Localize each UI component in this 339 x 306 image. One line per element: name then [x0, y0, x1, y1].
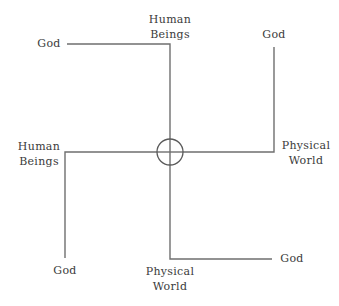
label-text: God [37, 37, 60, 50]
label-text: God [262, 28, 285, 41]
label-line-1: Physical [276, 138, 336, 153]
diagram-canvas: God Human Beings God Human Beings Physic… [0, 0, 339, 306]
label-text: God [53, 264, 76, 277]
label-line-2: World [276, 153, 336, 168]
label-line-2: Beings [14, 154, 64, 169]
label-top-right-god: God [259, 27, 289, 42]
label-bottom-right-god: God [277, 251, 307, 266]
label-bottom-physical-world: Physical World [140, 264, 200, 294]
arm-left [65, 152, 157, 258]
arm-right [183, 47, 274, 152]
label-right-physical-world: Physical World [276, 138, 336, 168]
label-bottom-left-god: God [50, 263, 80, 278]
label-text: God [280, 252, 303, 265]
arm-top [67, 44, 170, 139]
label-line-2: Beings [145, 27, 195, 42]
arm-bottom [170, 165, 272, 259]
label-top-left-god: God [34, 36, 64, 51]
label-line-1: Human [14, 139, 64, 154]
label-line-1: Human [145, 12, 195, 27]
label-left-human-beings: Human Beings [14, 139, 64, 169]
label-line-1: Physical [140, 264, 200, 279]
label-line-2: World [140, 279, 200, 294]
label-top-human-beings: Human Beings [145, 12, 195, 42]
